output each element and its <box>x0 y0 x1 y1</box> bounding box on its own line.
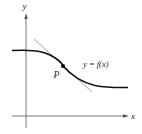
y-axis-arrow-icon <box>24 13 27 19</box>
point-p-label: P <box>53 70 60 80</box>
function-curve <box>12 50 128 87</box>
x-axis: x <box>12 111 135 121</box>
x-axis-label: x <box>130 111 135 121</box>
tangent-line-diagram: y x P y = f(x) <box>0 0 142 134</box>
point-p-marker <box>61 64 65 68</box>
y-axis-label: y <box>22 1 27 11</box>
y-axis: y <box>22 1 28 128</box>
function-label: y = f(x) <box>82 59 109 69</box>
x-axis-arrow-icon <box>123 114 129 117</box>
